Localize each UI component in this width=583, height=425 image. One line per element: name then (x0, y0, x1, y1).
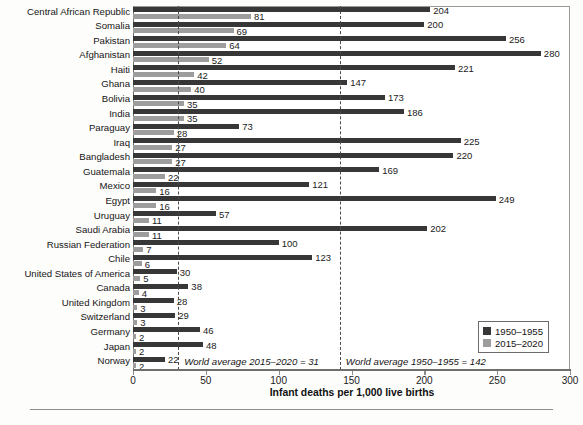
legend-item[interactable]: 2015–2020 (483, 337, 543, 349)
bar-value-label: 186 (407, 108, 423, 117)
bar-value-label: 38 (191, 282, 202, 291)
bar-value-label: 221 (458, 64, 474, 73)
bar-2015-2020[interactable] (133, 276, 140, 281)
world-average-annotation: World average 1950–1955 = 142 (346, 357, 486, 367)
legend-item-label: 1950–1955 (495, 326, 543, 337)
y-axis-tick-label: United Kingdom (2, 298, 130, 308)
bar-2015-2020[interactable] (133, 101, 184, 106)
bar-value-label: 22 (168, 355, 179, 364)
x-axis-tick-label: 200 (416, 375, 433, 386)
bar-value-label: 4 (142, 289, 147, 298)
bar-1950-1955[interactable] (133, 255, 312, 260)
legend: 1950–1955 2015–2020 (478, 321, 549, 353)
figure: Central African RepublicSomaliaPakistanA… (0, 0, 583, 425)
y-axis-tick-label: Bangladesh (2, 152, 130, 162)
world-average-annotation: World average 2015–2020 = 31 (184, 357, 319, 367)
bar-2015-2020[interactable] (133, 290, 139, 295)
bar-2015-2020[interactable] (133, 349, 136, 354)
bar-2015-2020[interactable] (133, 232, 149, 237)
bar-1950-1955[interactable] (133, 211, 216, 216)
bar-1950-1955[interactable] (133, 22, 424, 27)
bar-2015-2020[interactable] (133, 218, 149, 223)
y-axis-tick-label: Saudi Arabia (2, 225, 130, 235)
bar-2015-2020[interactable] (133, 159, 172, 164)
bar-value-label: 147 (350, 78, 366, 87)
bar-2015-2020[interactable] (133, 247, 143, 252)
bar-1950-1955[interactable] (133, 357, 165, 362)
bar-value-label: 249 (499, 195, 515, 204)
bar-value-label: 2 (139, 347, 144, 356)
bar-2015-2020[interactable] (133, 87, 191, 92)
bar-1950-1955[interactable] (133, 269, 177, 274)
bar-value-label: 35 (187, 114, 198, 123)
y-axis-tick-label: Guatemala (2, 167, 130, 177)
legend-item[interactable]: 1950–1955 (483, 325, 543, 337)
world-average-reference-line (340, 6, 341, 370)
bar-2015-2020[interactable] (133, 320, 137, 325)
bar-2015-2020[interactable] (133, 188, 156, 193)
bar-value-label: 6 (145, 260, 150, 269)
bar-value-label: 202 (430, 224, 446, 233)
bar-2015-2020[interactable] (133, 14, 251, 19)
y-axis-tick-label: Pakistan (2, 36, 130, 46)
x-axis-tick-label: 100 (270, 375, 287, 386)
y-axis-tick-label: Egypt (2, 196, 130, 206)
bar-1950-1955[interactable] (133, 80, 347, 85)
bar-2015-2020[interactable] (133, 145, 172, 150)
bar-2015-2020[interactable] (133, 72, 194, 77)
bar-value-label: 16 (159, 187, 170, 196)
bar-1950-1955[interactable] (133, 65, 455, 70)
bar-value-label: 11 (152, 231, 162, 240)
bar-value-label: 100 (282, 239, 298, 248)
bar-1950-1955[interactable] (133, 36, 506, 41)
bar-1950-1955[interactable] (133, 313, 175, 318)
bar-2015-2020[interactable] (133, 261, 142, 266)
bar-1950-1955[interactable] (133, 298, 174, 303)
bar-value-label: 27 (175, 143, 186, 152)
bar-2015-2020[interactable] (133, 28, 234, 33)
bar-2015-2020[interactable] (133, 363, 136, 368)
bar-1950-1955[interactable] (133, 240, 279, 245)
bar-1950-1955[interactable] (133, 226, 427, 231)
bar-2015-2020[interactable] (133, 334, 136, 339)
x-axis-tick-label: 300 (562, 375, 579, 386)
x-axis-tick-label: 150 (343, 375, 360, 386)
bar-value-label: 280 (544, 49, 560, 58)
bar-value-label: 173 (388, 93, 404, 102)
bar-1950-1955[interactable] (133, 196, 496, 201)
bar-1950-1955[interactable] (133, 95, 385, 100)
bar-value-label: 48 (206, 341, 217, 350)
bar-value-label: 169 (382, 166, 398, 175)
bar-2015-2020[interactable] (133, 116, 184, 121)
bar-value-label: 69 (237, 27, 248, 36)
bar-value-label: 123 (315, 253, 331, 262)
bar-2015-2020[interactable] (133, 174, 165, 179)
bar-value-label: 121 (312, 180, 328, 189)
bar-value-label: 3 (140, 304, 145, 313)
bar-2015-2020[interactable] (133, 130, 174, 135)
bar-value-label: 2 (139, 333, 144, 342)
bar-value-label: 42 (197, 71, 208, 80)
bar-value-label: 220 (456, 151, 472, 160)
bar-value-label: 204 (433, 6, 449, 15)
bar-1950-1955[interactable] (133, 51, 541, 56)
y-axis-tick-label: Haiti (2, 65, 130, 75)
bar-value-label: 225 (464, 137, 480, 146)
y-axis-tick-label: Ghana (2, 79, 130, 89)
bar-2015-2020[interactable] (133, 203, 156, 208)
y-axis-tick-label: Iraq (2, 138, 130, 148)
legend-item-label: 2015–2020 (495, 338, 543, 349)
bar-2015-2020[interactable] (133, 305, 137, 310)
bar-value-label: 64 (229, 41, 240, 50)
bar-value-label: 73 (242, 122, 253, 131)
y-axis-tick-label: Canada (2, 283, 130, 293)
y-axis-tick-label: Central African Republic (2, 7, 130, 17)
bar-value-label: 30 (180, 268, 191, 277)
bar-value-label: 46 (203, 326, 214, 335)
y-axis-tick-label: Somalia (2, 21, 130, 31)
bar-value-label: 7 (146, 245, 151, 254)
bar-2015-2020[interactable] (133, 43, 226, 48)
bar-2015-2020[interactable] (133, 57, 209, 62)
bar-1950-1955[interactable] (133, 109, 404, 114)
y-axis-tick-label: Norway (2, 356, 130, 366)
